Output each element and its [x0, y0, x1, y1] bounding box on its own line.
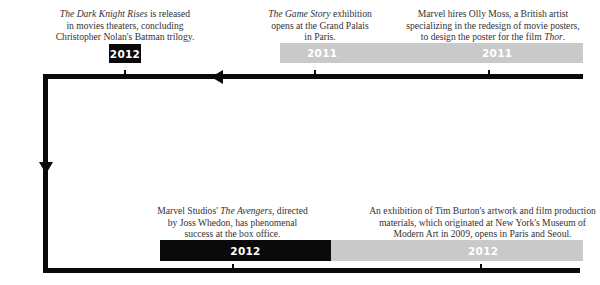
caption-line: An exhibition of Tim Burton's artwork an… [365, 205, 600, 217]
year-label: 2011 [482, 47, 512, 59]
caption-text: . [563, 31, 565, 42]
caption-line: opens at the Grand Palais [255, 20, 385, 32]
year-label: 2011 [307, 47, 337, 59]
caption-text: to design the poster for the film [421, 31, 544, 42]
caption-line: materials, which originated at New York'… [365, 217, 600, 229]
timeline-bottom-line [43, 268, 580, 273]
year-badge-2012-dark-knight: 2012 [109, 44, 141, 63]
caption-line: Christopher Nolan's Batman trilogy. [40, 31, 210, 43]
caption-line: success at the box office. [150, 228, 315, 240]
caption-title: The Dark Knight Rises [60, 8, 148, 19]
tick-mark [314, 70, 316, 75]
event-tim-burton-caption: An exhibition of Tim Burton's artwork an… [365, 205, 600, 240]
year-band-2012-tim-burton: 2012 [331, 240, 583, 261]
caption-title: Thor [544, 31, 563, 42]
caption-line: Marvel hires Olly Moss, a British artist [398, 8, 588, 20]
year-label: 2012 [110, 48, 140, 60]
caption-text: is released [148, 8, 191, 19]
tick-mark [232, 264, 234, 269]
caption-title: The Avengers [220, 205, 272, 216]
caption-title: The Game Story [268, 8, 330, 19]
arrow-down-icon [39, 162, 53, 174]
year-band-2011: 2011 2011 [280, 43, 583, 63]
arrow-left-icon [211, 70, 223, 84]
caption-text: exhibition [331, 8, 372, 19]
year-band-2012-avengers: 2012 [160, 240, 331, 261]
caption-text: , directed [272, 205, 308, 216]
event-game-story-caption: The Game Story exhibition opens at the G… [255, 8, 385, 43]
event-olly-moss-caption: Marvel hires Olly Moss, a British artist… [398, 8, 588, 43]
caption-line: specializing in the redesign of movie po… [398, 20, 588, 32]
caption-line: in Paris. [255, 31, 385, 43]
caption-line: Modern Art in 2009, opens in Paris and S… [365, 228, 600, 240]
caption-line: by Joss Whedon, has phenomenal [150, 217, 315, 229]
event-avengers-caption: Marvel Studios' The Avengers, directed b… [150, 205, 315, 240]
tick-mark [480, 264, 482, 269]
tick-mark [124, 70, 126, 75]
caption-text: Marvel Studios' [157, 205, 220, 216]
event-dark-knight-rises-caption: The Dark Knight Rises is released in mov… [40, 8, 210, 43]
caption-line: in movies theaters, concluding [40, 20, 210, 32]
tick-mark [488, 70, 490, 75]
year-label: 2012 [230, 245, 260, 257]
year-label: 2012 [468, 245, 498, 257]
